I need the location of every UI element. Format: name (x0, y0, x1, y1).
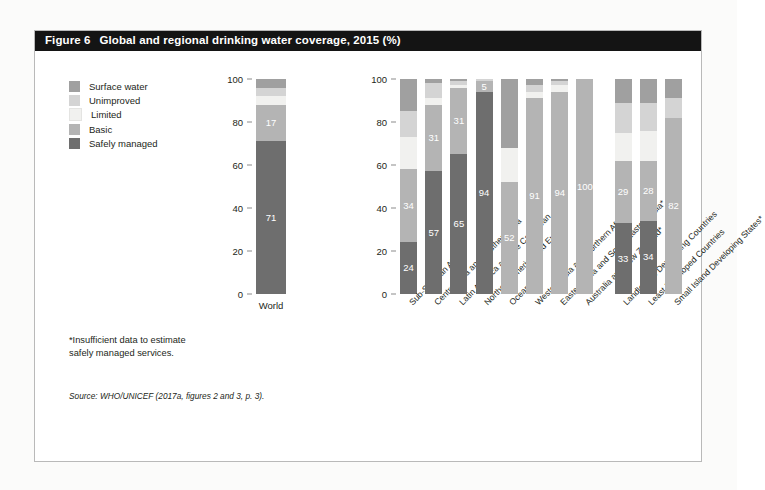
bar-segment-safely-managed: 57 (425, 171, 442, 294)
bar-segment-surface-water (501, 79, 518, 148)
bar-segment-unimproved (615, 103, 632, 133)
bar-least-developed-countries[interactable]: 3428 (640, 79, 657, 294)
bar-segment-value: 94 (551, 188, 568, 198)
figure-title-text: Global and regional drinking water cover… (100, 34, 401, 46)
bar-segment-unimproved (400, 111, 417, 137)
bar-segment-basic: 28 (640, 161, 657, 221)
y-axis-tick-label: 100 (227, 74, 243, 85)
figure-frame: Figure 6Global and regional drinking wat… (34, 30, 702, 462)
legend-item-limited: Limited (69, 108, 158, 122)
bar-segment-surface-water (615, 79, 632, 103)
bar-segment-surface-water (450, 79, 467, 81)
bar-small-island-developing-states[interactable]: 82 (665, 79, 682, 294)
bar-segment-safely-managed: 94 (476, 92, 493, 294)
y-axis-tick-label: 60 (376, 160, 387, 171)
bar-segment-value: 100 (576, 182, 593, 192)
bar-segment-value: 29 (615, 187, 632, 197)
bar-latin-america-and-the-caribbean[interactable]: 6531 (450, 79, 467, 294)
bar-segment-surface-water (665, 79, 682, 98)
y-axis-tick-mark (247, 122, 252, 123)
bar-segment-value: 94 (476, 188, 493, 198)
plot-area: 7117World (256, 79, 286, 294)
legend-swatch-icon (69, 138, 80, 149)
bar-segment-safely-managed: 33 (615, 223, 632, 294)
bar-segment-surface-water (526, 79, 543, 85)
bar-segment-value: 34 (640, 252, 657, 262)
figure-title: Figure 6Global and regional drinking wat… (45, 34, 401, 46)
y-axis: 020406080100 (221, 79, 247, 294)
bar-segment-limited (400, 137, 417, 169)
bar-segment-value: 71 (256, 213, 286, 223)
legend-item-safely-managed: Safely managed (69, 137, 158, 151)
bar-segment-value: 33 (615, 254, 632, 264)
bar-segment-unimproved (450, 81, 467, 85)
footnote-line-2: safely managed services. (69, 347, 186, 360)
figure-title-bar: Figure 6Global and regional drinking wat… (35, 31, 701, 51)
bar-segment-value: 31 (425, 133, 442, 143)
legend-item-label: Surface water (89, 81, 148, 92)
bar-segment-surface-water (256, 79, 286, 88)
y-axis-tick-mark (247, 251, 252, 252)
legend-item-label: Limited (91, 109, 122, 120)
bar-segment-surface-water (400, 79, 417, 111)
bar-segment-unimproved (665, 98, 682, 117)
bar-segment-limited (640, 131, 657, 161)
bar-segment-basic: 17 (256, 105, 286, 142)
bar-segment-basic: 82 (665, 118, 682, 294)
chart-regional-panel: 0204060801002434Sub-Saharan Africa5731Ce… (365, 79, 665, 317)
legend-item-label: Basic (89, 124, 112, 135)
y-axis-tick-mark (247, 165, 252, 166)
figure-number: Figure 6 (45, 34, 91, 46)
bar-segment-surface-water (640, 79, 657, 103)
y-axis-tick-label: 80 (232, 117, 243, 128)
bar-oceania[interactable]: 52 (501, 79, 518, 294)
bar-segment-safely-managed: 71 (256, 141, 286, 294)
y-axis-tick-label: 100 (371, 74, 387, 85)
chart-legend: Surface waterUnimprovedLimitedBasicSafel… (69, 79, 158, 151)
bar-segment-limited (256, 96, 286, 105)
bar-segment-value: 24 (400, 263, 417, 273)
bar-australia-and-new-zealand[interactable]: 100 (576, 79, 593, 294)
footnote-line-1: *Insufficient data to estimate (69, 334, 186, 347)
bar-central-asia-and-southern-asia[interactable]: 5731 (425, 79, 442, 294)
legend-swatch-icon (69, 95, 80, 106)
bar-segment-value: 31 (450, 116, 467, 126)
bar-segment-unimproved (425, 83, 442, 98)
y-axis-tick-label: 40 (232, 203, 243, 214)
figure-footnote: *Insufficient data to estimate safely ma… (69, 334, 186, 359)
bar-segment-basic: 52 (501, 182, 518, 294)
y-axis-tick-label: 20 (376, 246, 387, 257)
y-axis-tick-mark (391, 251, 396, 252)
bar-western-asia-and-northern-africa[interactable]: 91 (526, 79, 543, 294)
bar-segment-value: 65 (450, 219, 467, 229)
bar-segment-basic: 5 (476, 81, 493, 92)
bar-eastern-asia-and-south-eastern-asia[interactable]: 94 (551, 79, 568, 294)
bar-segment-value: 57 (425, 228, 442, 238)
legend-item-surface-water: Surface water (69, 79, 158, 93)
legend-swatch-icon (69, 108, 82, 121)
bar-segment-basic: 91 (526, 98, 543, 294)
y-axis-tick-mark (391, 208, 396, 209)
bar-segment-value: 17 (256, 118, 286, 128)
bar-segment-value: 5 (476, 82, 493, 92)
bar-world[interactable]: 7117 (256, 79, 286, 294)
figure-source: Source: WHO/UNICEF (2017a, figures 2 and… (69, 391, 264, 401)
legend-swatch-icon (69, 124, 80, 135)
bar-segment-value: 28 (640, 186, 657, 196)
bar-landlocked-developing-countries[interactable]: 3329 (615, 79, 632, 294)
x-axis-category-label: World (241, 300, 301, 311)
bar-segment-limited (526, 92, 543, 98)
bar-segment-surface-water (551, 79, 568, 81)
bar-sub-saharan-africa[interactable]: 2434 (400, 79, 417, 294)
bar-northern-america-and-europe[interactable]: 945 (476, 79, 493, 294)
legend-item-basic: Basic (69, 122, 158, 136)
bar-segment-safely-managed: 34 (640, 221, 657, 294)
y-axis-tick-label: 0 (238, 289, 243, 300)
legend-item-label: Unimproved (89, 95, 140, 106)
y-axis-tick-label: 60 (232, 160, 243, 171)
bar-segment-value: 34 (400, 201, 417, 211)
y-axis-tick-mark (247, 294, 252, 295)
y-axis-tick-mark (247, 208, 252, 209)
y-axis: 020406080100 (365, 79, 391, 294)
bar-segment-value: 52 (501, 233, 518, 243)
